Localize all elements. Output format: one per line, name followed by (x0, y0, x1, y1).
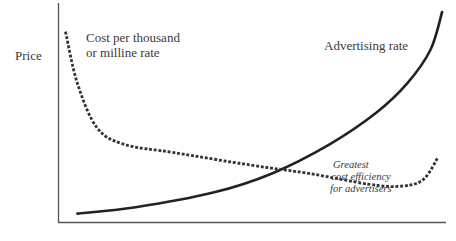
efficiency-annotation-line3: for advertisers (330, 183, 392, 195)
cpm-label-line2: or milline rate (86, 45, 160, 60)
advertising-rate-label: Advertising rate (324, 38, 408, 53)
efficiency-annotation-line1: Greatest (333, 159, 369, 171)
chart-canvas (0, 0, 456, 241)
cpm-label-line1: Cost per thousand (86, 30, 180, 45)
y-axis-label: Price (15, 48, 42, 63)
efficiency-annotation-line2: cost efficiency (331, 171, 391, 183)
